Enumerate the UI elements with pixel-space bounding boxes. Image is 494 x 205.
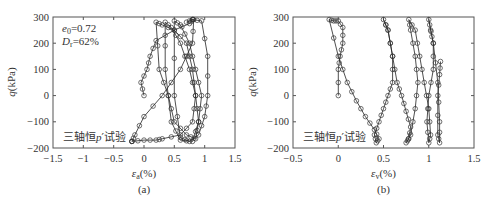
panel-a-caption: (a) <box>138 183 151 196</box>
xtick-label: 1.5 <box>467 153 480 164</box>
ytick-label: −200 <box>27 143 49 154</box>
xtick-label: 1 <box>426 153 431 164</box>
panel-b-xtick-labels: −0.5 0 0.5 1 1.5 <box>283 153 480 164</box>
panel-b-series <box>327 17 443 145</box>
annotation-void-ratio: e0=0.72 <box>62 22 96 36</box>
panel-a-xtick-labels: −1.5 −1 −0.5 0 0.5 1 1.5 <box>43 153 241 164</box>
xtick-label: 0 <box>336 153 341 164</box>
xtick-label: −0.5 <box>104 153 123 164</box>
panel-a-test-label: 三轴恒p′试验 <box>63 130 126 144</box>
ytick-label: 0 <box>284 90 289 101</box>
xtick-label: 0.5 <box>168 153 181 164</box>
panel-b-ytick-labels: 300 200 100 0 −100 −200 <box>267 12 289 154</box>
panel-a-xlabel: εa(%) <box>132 167 157 181</box>
annotation-relative-density: Dr=62% <box>61 35 99 49</box>
ytick-label: −100 <box>27 116 49 127</box>
panel-a-ytick-labels: 300 200 100 0 −100 −200 <box>27 12 49 154</box>
xtick-label: 0 <box>141 153 146 164</box>
panel-b-xlabel: εv(%) <box>371 167 396 181</box>
panel-b-ticks <box>293 17 474 148</box>
ytick-label: 200 <box>273 38 289 49</box>
figure-canvas: −1.5 −1 −0.5 0 0.5 1 1.5 300 200 100 0 −… <box>0 0 494 205</box>
ytick-label: 100 <box>273 64 289 75</box>
ytick-label: −100 <box>267 116 289 127</box>
xtick-label: 0.5 <box>377 153 390 164</box>
panel-a: −1.5 −1 −0.5 0 0.5 1 1.5 300 200 100 0 −… <box>5 12 242 197</box>
xtick-label: 1 <box>202 153 207 164</box>
ytick-label: 0 <box>44 90 49 101</box>
xtick-label: −0.5 <box>283 153 302 164</box>
panel-a-ylabel: q(kPa) <box>5 67 18 97</box>
ytick-label: 200 <box>33 38 49 49</box>
ytick-label: −200 <box>267 143 289 154</box>
ytick-label: 100 <box>33 64 49 75</box>
ytick-label: 300 <box>33 12 49 23</box>
xtick-label: 1.5 <box>228 153 241 164</box>
panel-b: −0.5 0 0.5 1 1.5 300 200 100 0 −100 −200… <box>246 12 481 197</box>
panel-b-caption: (b) <box>377 183 390 196</box>
panel-b-frame <box>293 17 474 148</box>
panel-a-series <box>130 17 210 143</box>
panel-b-test-label: 三轴恒p′试验 <box>303 130 366 144</box>
ytick-label: 300 <box>273 12 289 23</box>
xtick-label: −1 <box>78 153 89 164</box>
panel-b-ylabel: q(kPa) <box>246 67 259 97</box>
xtick-label: −1.5 <box>43 153 62 164</box>
